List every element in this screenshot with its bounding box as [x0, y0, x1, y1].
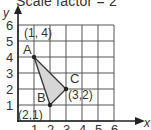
vertex-b-label: B — [37, 90, 46, 105]
x-tick-labels: 123456 — [31, 122, 118, 130]
vertex-b-coordinates: (2,1) — [18, 108, 43, 122]
y-tick-label: 5 — [6, 34, 13, 49]
x-tick-label: 4 — [79, 122, 86, 130]
x-tick-label: 2 — [47, 122, 54, 130]
vertex-a-label: A — [23, 42, 32, 57]
y-tick-labels: 123456 — [6, 18, 13, 113]
x-tick-label: 1 — [31, 122, 38, 130]
vertex-c-label: C — [70, 71, 79, 86]
y-tick-label: 3 — [6, 66, 13, 81]
vertex-a-dot — [32, 55, 36, 59]
x-tick-label: 5 — [95, 122, 102, 130]
y-tick-label: 2 — [6, 82, 13, 97]
vertex-b-dot — [48, 103, 52, 107]
x-tick-label: 3 — [63, 122, 70, 130]
coordinate-diagram: Scale factor = 2 y x 123456 123456 A(1, … — [0, 0, 151, 130]
vertex-c-coordinates: (3,2) — [68, 88, 93, 102]
coordinate-plane: y x 123456 123456 A(1, 4)B(2,1)C(3,2) — [0, 0, 151, 130]
vertex-a-coordinates: (1, 4) — [24, 26, 52, 40]
y-tick-label: 4 — [6, 50, 13, 65]
y-tick-label: 1 — [6, 98, 13, 113]
vertex-points: A(1, 4)B(2,1)C(3,2) — [18, 26, 93, 122]
diagram-title: Scale factor = 2 — [16, 0, 117, 9]
y-tick-label: 6 — [6, 18, 13, 33]
x-tick-label: 6 — [111, 122, 118, 130]
x-axis-label: x — [143, 116, 151, 130]
